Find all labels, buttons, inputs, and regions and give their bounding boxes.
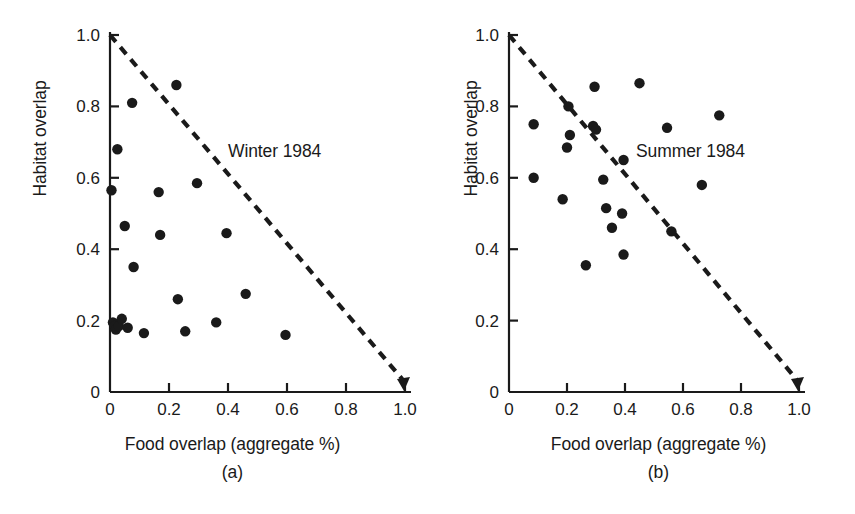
reference-line: [509, 35, 797, 380]
panel-caption-b: (b): [428, 462, 855, 483]
reference-line: [110, 35, 403, 380]
data-point: [173, 294, 183, 304]
x-tick-label: 0.8: [729, 400, 753, 419]
data-point: [123, 323, 133, 333]
data-point: [562, 142, 572, 152]
data-point: [591, 124, 601, 134]
data-point: [180, 326, 190, 336]
data-point: [607, 223, 617, 233]
y-axis-label-a: Habitat overlap: [30, 54, 51, 224]
y-tick-label: 0.2: [76, 312, 100, 331]
data-point: [601, 203, 611, 213]
y-tick-label: 0.4: [76, 240, 100, 259]
y-tick-label: 0.6: [76, 169, 100, 188]
y-axis-label-b: Habitat overlap: [461, 54, 482, 224]
series-annotation-b: Summer 1984: [636, 141, 745, 162]
data-point: [617, 208, 627, 218]
x-tick-label: 1.0: [787, 400, 811, 419]
data-point: [120, 221, 130, 231]
data-point: [171, 80, 181, 90]
data-point: [127, 98, 137, 108]
y-tick-label: 0.8: [76, 97, 100, 116]
y-tick-label: 1.0: [475, 26, 499, 45]
reference-line-arrow-icon: [791, 377, 804, 391]
x-tick-label: 0.4: [613, 400, 637, 419]
y-tick-label: 0: [91, 383, 100, 402]
data-point: [221, 228, 231, 238]
x-tick-label: 0.8: [334, 400, 358, 419]
data-point: [153, 187, 163, 197]
figure-scatter-pair: 00.20.40.60.81.000.20.40.60.81.0 Habitat…: [0, 0, 855, 514]
panel-caption-a: (a): [0, 462, 427, 483]
y-tick-label: 1.0: [76, 26, 100, 45]
data-point: [117, 314, 127, 324]
series-annotation-a: Winter 1984: [228, 141, 321, 162]
y-tick-label: 0.2: [475, 312, 499, 331]
data-point: [618, 155, 628, 165]
reference-line-arrow-icon: [397, 377, 410, 391]
data-point: [192, 178, 202, 188]
x-axis-label-a: Food overlap (aggregate %): [0, 434, 427, 455]
data-point: [598, 174, 608, 184]
plot-area-a: 00.20.40.60.81.000.20.40.60.81.0: [0, 0, 427, 430]
x-tick-label: 0.2: [555, 400, 579, 419]
data-point: [581, 260, 591, 270]
data-point: [563, 101, 573, 111]
data-point: [106, 185, 116, 195]
data-point: [565, 130, 575, 140]
data-point: [528, 119, 538, 129]
data-point: [155, 230, 165, 240]
x-tick-label: 0.4: [216, 400, 240, 419]
data-point: [139, 328, 149, 338]
x-tick-label: 0: [105, 400, 114, 419]
panel-b: 00.20.40.60.81.000.20.40.60.81.0 Habitat…: [428, 0, 855, 514]
x-tick-label: 0.6: [275, 400, 299, 419]
data-point: [112, 144, 122, 154]
panel-a: 00.20.40.60.81.000.20.40.60.81.0 Habitat…: [0, 0, 427, 514]
y-tick-label: 0: [490, 383, 499, 402]
plot-area-b: 00.20.40.60.81.000.20.40.60.81.0: [428, 0, 855, 430]
x-tick-label: 0: [504, 400, 513, 419]
data-point: [618, 249, 628, 259]
x-tick-label: 0.6: [671, 400, 695, 419]
data-point: [557, 194, 567, 204]
data-point: [697, 180, 707, 190]
data-point: [280, 330, 290, 340]
data-point: [241, 289, 251, 299]
x-axis-label-b: Food overlap (aggregate %): [428, 434, 855, 455]
data-point: [589, 82, 599, 92]
data-point: [128, 262, 138, 272]
data-point: [211, 317, 221, 327]
y-tick-label: 0.4: [475, 240, 499, 259]
data-point: [634, 78, 644, 88]
data-point: [714, 110, 724, 120]
data-point: [528, 173, 538, 183]
x-tick-label: 1.0: [393, 400, 417, 419]
data-point: [666, 226, 676, 236]
x-tick-label: 0.2: [157, 400, 181, 419]
data-point: [662, 123, 672, 133]
